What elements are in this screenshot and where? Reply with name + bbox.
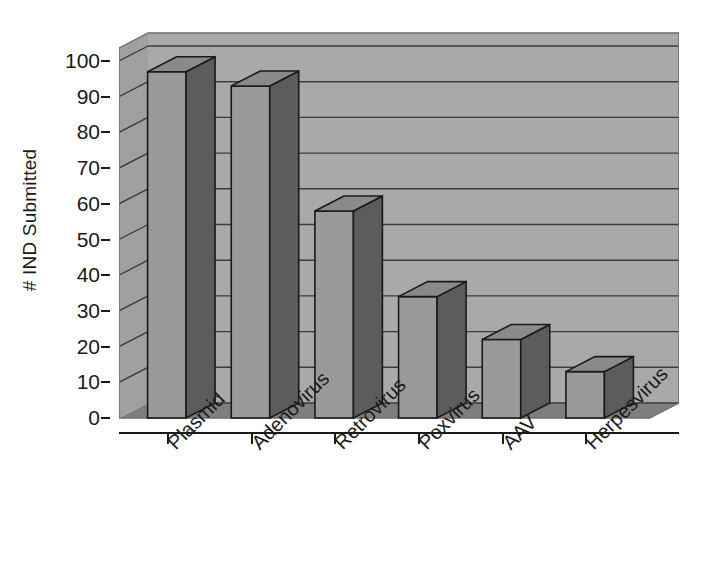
y-axis-title: # IND Submitted bbox=[10, 0, 50, 440]
bar-front-face bbox=[399, 297, 437, 418]
y-tick-mark bbox=[101, 346, 110, 348]
chart-figure: # IND Submitted 0102030405060708090100 P… bbox=[0, 0, 711, 562]
bar-side-face bbox=[186, 57, 215, 418]
y-tick-label: 30 bbox=[77, 299, 100, 323]
plot-svg bbox=[119, 30, 679, 430]
bar-side-face bbox=[270, 71, 299, 418]
y-tick-mark bbox=[101, 381, 110, 383]
y-tick-mark bbox=[101, 274, 110, 276]
y-tick-mark bbox=[101, 167, 110, 169]
y-tick-label: 10 bbox=[77, 370, 100, 394]
bar-front-face bbox=[231, 86, 269, 418]
bar-side-face bbox=[521, 324, 550, 418]
y-tick-mark bbox=[101, 96, 110, 98]
bar-front-face bbox=[148, 72, 186, 418]
x-axis-tick-labels: PlasmidAdenovirusRetrovirusPoxvirusAAVHe… bbox=[119, 432, 679, 562]
plot-area bbox=[119, 30, 679, 430]
y-tick-mark bbox=[101, 203, 110, 205]
bar[interactable] bbox=[231, 71, 298, 418]
y-tick-label: 60 bbox=[77, 192, 100, 216]
y-tick-mark bbox=[101, 60, 110, 62]
y-tick-label: 90 bbox=[77, 85, 100, 109]
y-tick-mark bbox=[101, 131, 110, 133]
y-tick-label: 40 bbox=[77, 263, 100, 287]
y-tick-mark bbox=[101, 417, 110, 419]
bar-side-face bbox=[353, 196, 382, 418]
y-tick-label: 0 bbox=[88, 406, 100, 430]
y-tick-label: 80 bbox=[77, 120, 100, 144]
y-tick-mark bbox=[101, 239, 110, 241]
y-tick-label: 70 bbox=[77, 156, 100, 180]
bar-front-face bbox=[482, 339, 520, 418]
bar[interactable] bbox=[482, 324, 549, 418]
bar[interactable] bbox=[148, 57, 215, 418]
left-wall bbox=[119, 33, 148, 418]
y-axis-title-text: # IND Submitted bbox=[19, 149, 41, 291]
y-tick-label: 100 bbox=[65, 49, 100, 73]
y-tick-label: 50 bbox=[77, 228, 100, 252]
bar-front-face bbox=[566, 372, 604, 418]
y-axis-tick-labels: 0102030405060708090100 bbox=[46, 0, 110, 562]
y-tick-label: 20 bbox=[77, 335, 100, 359]
y-tick-mark bbox=[101, 310, 110, 312]
